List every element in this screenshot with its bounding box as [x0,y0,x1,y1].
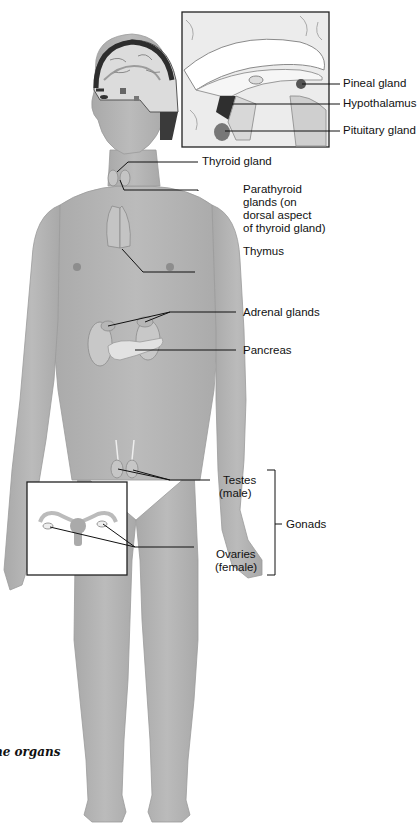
label-parathyroid-line4: of thyroid gland) [243,222,325,235]
label-parathyroid-line3: dorsal aspect [243,209,311,222]
label-adrenal-glands: Adrenal glands [243,306,320,319]
body-silhouette [4,34,262,822]
brain-inset [182,12,329,147]
label-pineal-gland: Pineal gland [343,77,406,90]
female-reproductive-inset [27,482,127,575]
label-thyroid-gland: Thyroid gland [202,155,272,168]
label-pituitary-gland: Pituitary gland [343,124,416,137]
label-testes-line2: (male) [219,487,252,500]
label-pancreas: Pancreas [243,344,292,357]
label-ovaries-line1: Ovaries [216,548,256,561]
figure-caption-fragment: ne organs [0,745,61,759]
label-gonads: Gonads [286,518,326,531]
label-parathyroid-line2: glands (on [243,196,297,209]
label-parathyroid-line1: Parathyroid [243,183,302,196]
label-thymus: Thymus [243,245,284,258]
label-hypothalamus: Hypothalamus [343,97,417,110]
label-ovaries-line2: (female) [215,561,257,574]
label-testes-line1: Testes [223,474,256,487]
